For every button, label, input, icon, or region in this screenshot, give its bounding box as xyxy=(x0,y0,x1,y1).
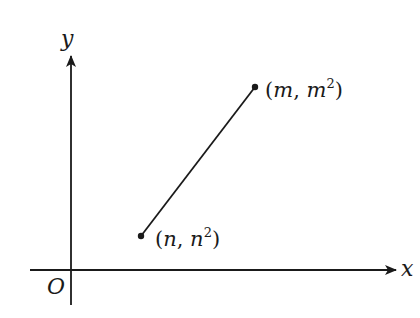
x-axis-label: x xyxy=(401,256,414,281)
y-axis-label: y xyxy=(60,26,74,51)
origin-label: O xyxy=(47,274,65,299)
point-m xyxy=(252,84,258,90)
point-m-label: (m, m2) xyxy=(265,76,343,102)
segment-line xyxy=(141,87,255,236)
coordinate-diagram: y x O (m, m2) (n, n2) xyxy=(0,0,420,318)
point-n xyxy=(138,233,144,239)
point-n-label: (n, n2) xyxy=(155,225,220,251)
